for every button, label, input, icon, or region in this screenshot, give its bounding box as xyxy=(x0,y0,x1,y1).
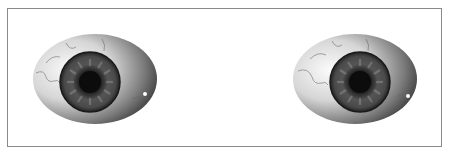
left-eyeball-image xyxy=(32,33,158,125)
right-eyeball-image xyxy=(292,33,418,125)
eyeball-icon xyxy=(292,33,418,125)
eyeball-icon xyxy=(32,33,158,125)
